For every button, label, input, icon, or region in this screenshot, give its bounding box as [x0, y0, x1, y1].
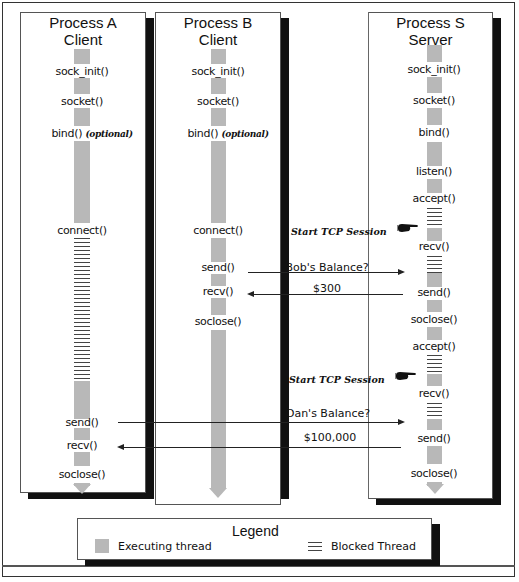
exec-bar	[427, 77, 442, 93]
arrow-right-icon	[398, 269, 405, 275]
exec-bar	[211, 78, 226, 94]
call-accept: accept()	[412, 192, 455, 205]
call-bind: bind() (optional)	[51, 127, 132, 141]
timeline-arrow-icon	[209, 488, 227, 498]
legend-blocked-swatch	[308, 542, 322, 551]
exec-bar	[74, 108, 90, 126]
message-arrow-line	[123, 447, 401, 448]
exec-bar	[427, 327, 442, 340]
process-s-title: Process S Server	[368, 14, 493, 48]
exec-bar	[427, 446, 442, 464]
call-recv: recv()	[419, 387, 449, 400]
call-connect: connect()	[57, 224, 107, 237]
exec-bar	[427, 273, 442, 287]
exec-bar	[427, 300, 442, 312]
call-sock-init: sock_init()	[55, 65, 108, 78]
optional-note: (optional)	[85, 129, 132, 139]
call-soclose: soclose()	[411, 467, 458, 480]
exec-bar	[211, 330, 226, 488]
exec-bar	[427, 108, 442, 125]
exec-bar	[427, 142, 442, 166]
pointing-hand-icon	[397, 223, 419, 233]
call-bind: bind() (optional)	[187, 127, 268, 141]
exec-bar	[427, 179, 442, 193]
exec-bar	[74, 452, 90, 466]
exec-bar	[211, 108, 226, 126]
call-bind: bind()	[419, 126, 450, 139]
call-listen: listen()	[416, 165, 452, 178]
arrow-right-icon	[398, 419, 405, 425]
timeline-arrow-icon	[73, 484, 91, 494]
call-send: send()	[201, 261, 234, 274]
call-socket: socket()	[413, 94, 455, 107]
exec-bar	[74, 141, 90, 223]
exec-bar	[211, 49, 226, 64]
blocked-bar	[427, 256, 442, 273]
process-a-role: Client	[20, 31, 146, 48]
exec-bar	[427, 374, 442, 386]
blocked-bar	[427, 355, 442, 374]
exec-bar	[427, 45, 442, 62]
process-a-name: Process A	[20, 14, 146, 31]
legend-title: Legend	[232, 523, 279, 539]
guide-line	[368, 12, 369, 499]
call-soclose: soclose()	[195, 315, 242, 328]
tcp-session-label: Start TCP Session	[289, 374, 385, 385]
exec-bar	[211, 141, 226, 223]
process-s-name: Process S	[368, 14, 493, 31]
message-label: $100,000	[304, 431, 357, 444]
call-socket: socket()	[61, 95, 103, 108]
exec-bar	[74, 381, 90, 419]
timeline-arrow-icon	[426, 484, 444, 494]
optional-note: (optional)	[221, 129, 268, 139]
blocked-bar	[74, 238, 90, 381]
legend-executing-label: Executing thread	[118, 540, 212, 553]
exec-bar	[211, 298, 226, 315]
blocked-bar	[427, 403, 442, 419]
call-sock-init: sock_init()	[191, 65, 244, 78]
bind-label: bind()	[187, 127, 218, 140]
arrow-left-icon	[247, 291, 254, 297]
call-soclose: soclose()	[59, 468, 106, 481]
legend-blocked-label: Blocked Thread	[331, 540, 416, 553]
bind-label: bind()	[51, 127, 82, 140]
process-b-title: Process B Client	[155, 14, 281, 48]
message-arrow-line	[248, 272, 400, 273]
message-label: Dan's Balance?	[286, 407, 370, 420]
process-b-role: Client	[155, 31, 281, 48]
process-a-title: Process A Client	[20, 14, 146, 48]
call-send: send()	[417, 432, 450, 445]
blocked-bar	[427, 208, 442, 228]
pointing-hand-icon	[395, 371, 417, 381]
call-socket: socket()	[197, 95, 239, 108]
legend-executing-swatch	[95, 539, 109, 553]
process-b-name: Process B	[155, 14, 281, 31]
call-recv: recv()	[419, 240, 449, 253]
message-arrow-line	[253, 294, 403, 295]
exec-bar	[74, 49, 90, 64]
call-sock-init: sock_init()	[407, 63, 460, 76]
call-connect: connect()	[193, 224, 243, 237]
exec-bar	[211, 238, 226, 262]
call-recv: recv()	[67, 439, 97, 452]
exec-bar	[427, 419, 442, 430]
arrow-left-icon	[117, 444, 124, 450]
message-arrow-line	[118, 422, 400, 423]
call-send: send()	[417, 286, 450, 299]
call-soclose: soclose()	[411, 313, 458, 326]
call-accept: accept()	[412, 340, 455, 353]
call-recv: recv()	[203, 285, 233, 298]
exec-bar	[74, 78, 90, 94]
tcp-session-label: Start TCP Session	[291, 226, 387, 237]
